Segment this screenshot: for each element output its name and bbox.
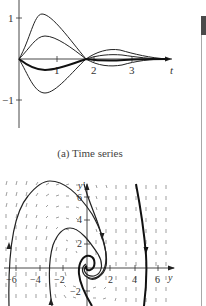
phase-xtick-6: 6 [155,274,160,285]
phase-xtick-2: 2 [108,274,113,285]
series-curve-2 [19,36,168,59]
trajectory-outer [9,181,106,306]
phase-xtick-m2: −2 [54,274,65,285]
arrow-up-icon [7,242,12,249]
ytick-minus1: −1 [2,94,14,106]
phase-xlabel: y [167,272,173,283]
ytick-1: 1 [8,12,14,24]
arrow-down-icon [144,247,149,254]
phase-xtick-m6: −6 [6,274,17,285]
phase-ytick-4: 4 [77,214,82,225]
page-edge-block [201,16,206,35]
y-axis-arrow-icon [168,266,175,271]
arrow-down-icon [100,233,105,240]
xtick-3: 3 [129,64,135,76]
phase-ytick-2: 2 [77,238,82,249]
xtick-2: 2 [91,64,97,76]
phase-portrait-chart: y′ y −6 −4 −2 2 4 6 6 4 2 −2 [4,180,175,306]
trajectory-right [136,184,146,306]
page-edge-rule [201,35,202,306]
arrow-up-icon [49,298,54,305]
phase-xtick-4: 4 [132,274,137,285]
t-axis-label: t [170,64,174,76]
figure-caption: (a) Time series [0,147,180,159]
xtick-1: 1 [54,64,60,76]
phase-xtick-m4: −4 [30,274,41,285]
phase-ytick-m2: −2 [70,286,81,297]
